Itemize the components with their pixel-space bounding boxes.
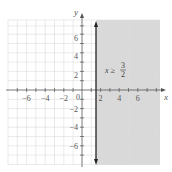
fraction-denominator: 2 xyxy=(121,70,125,79)
y-tick-label: 4 xyxy=(74,52,78,61)
x-tick-label: 2 xyxy=(99,94,103,103)
y-tick-label: −4 xyxy=(69,123,78,132)
inequality-graph: −6 −4 −2 0 2 4 6 6 4 2 −2 −4 −6 x y x ≥ … xyxy=(0,0,172,172)
origin-label: 0 xyxy=(76,93,80,102)
shaded-region xyxy=(96,20,160,165)
y-axis-label: y xyxy=(73,7,78,17)
y-tick-label: 6 xyxy=(74,34,78,43)
y-tick-label: −2 xyxy=(69,105,78,114)
x-tick-label: −6 xyxy=(22,94,31,103)
x-tick-label: 4 xyxy=(117,94,121,103)
x-axis-label: x xyxy=(163,92,168,102)
y-tick-label: 2 xyxy=(74,71,78,80)
x-tick-label: −2 xyxy=(60,94,69,103)
inequality-lhs: x ≥ xyxy=(104,66,116,75)
x-tick-label: 6 xyxy=(136,94,140,103)
fraction-numerator: 3 xyxy=(121,61,125,70)
y-tick-label: −6 xyxy=(69,142,78,151)
x-tick-label: −4 xyxy=(41,94,50,103)
